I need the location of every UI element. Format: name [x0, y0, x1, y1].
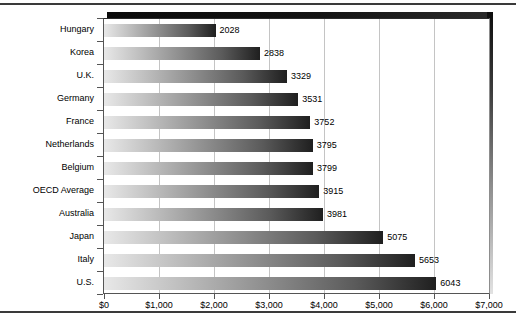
plot-area: 2028283833293531375237953799391539815075… — [103, 18, 490, 294]
category-tick — [97, 248, 103, 249]
bar-value-label: 3752 — [310, 118, 334, 127]
bar-row: 2028 — [104, 24, 489, 37]
category-tick — [97, 18, 103, 19]
value-tick-label: $3,000 — [255, 301, 283, 310]
figure-bottom-rule — [0, 311, 516, 313]
category-label: Italy — [77, 255, 94, 264]
value-tick — [159, 294, 160, 299]
category-label: France — [66, 117, 94, 126]
bar-value-label: 6043 — [436, 279, 460, 288]
bar-row: 5075 — [104, 231, 489, 244]
value-tick-label: $4,000 — [310, 301, 338, 310]
value-tick — [324, 294, 325, 299]
category-label: Hungary — [60, 25, 94, 34]
bar[interactable] — [104, 47, 260, 60]
category-tick — [97, 225, 103, 226]
bar-value-label: 3981 — [323, 210, 347, 219]
category-tick — [97, 156, 103, 157]
bar[interactable] — [104, 116, 310, 129]
value-tick-label: $1,000 — [145, 301, 173, 310]
bar[interactable] — [104, 70, 287, 83]
value-tick — [269, 294, 270, 299]
value-tick-label: $7,000 — [475, 301, 503, 310]
bar[interactable] — [104, 208, 323, 221]
bar-value-label: 3799 — [313, 164, 337, 173]
bar-value-label: 3329 — [287, 72, 311, 81]
bar[interactable] — [104, 93, 298, 106]
category-label: Korea — [70, 48, 94, 57]
category-label: Australia — [59, 209, 94, 218]
category-tick — [97, 41, 103, 42]
bar[interactable] — [104, 24, 216, 37]
bar[interactable] — [104, 254, 415, 267]
category-tick — [97, 110, 103, 111]
category-label: U.K. — [76, 71, 94, 80]
bar-row: 3752 — [104, 116, 489, 129]
value-tick — [214, 294, 215, 299]
category-tick — [97, 133, 103, 134]
bar-row: 3981 — [104, 208, 489, 221]
bar[interactable] — [104, 277, 436, 290]
bar-row: 3329 — [104, 70, 489, 83]
bar[interactable] — [104, 231, 383, 244]
category-tick — [97, 64, 103, 65]
bar-row: 3795 — [104, 139, 489, 152]
category-label: U.S. — [76, 278, 94, 287]
category-label: Belgium — [61, 163, 94, 172]
value-tick — [434, 294, 435, 299]
bar[interactable] — [104, 162, 313, 175]
category-label: Germany — [57, 94, 94, 103]
category-tick — [97, 271, 103, 272]
bar-value-label: 3915 — [319, 187, 343, 196]
category-tick — [97, 202, 103, 203]
bar-value-label: 3531 — [298, 95, 322, 104]
bar-row: 2838 — [104, 47, 489, 60]
bar-value-label: 5653 — [415, 256, 439, 265]
category-label: Netherlands — [45, 140, 94, 149]
bar-row: 3915 — [104, 185, 489, 198]
category-label: OECD Average — [33, 186, 94, 195]
chart-figure: 2028283833293531375237953799391539815075… — [0, 0, 516, 323]
bar-row: 6043 — [104, 277, 489, 290]
value-tick — [489, 294, 490, 299]
bar-value-label: 2028 — [216, 26, 240, 35]
bar[interactable] — [104, 185, 319, 198]
bar[interactable] — [104, 139, 313, 152]
bar-rows: 2028283833293531375237953799391539815075… — [104, 19, 489, 293]
category-tick — [97, 179, 103, 180]
figure-top-rule — [0, 3, 516, 5]
value-tick-label: $2,000 — [200, 301, 228, 310]
value-tick-label: $0 — [99, 301, 109, 310]
value-tick-label: $5,000 — [365, 301, 393, 310]
value-tick — [104, 294, 105, 299]
category-tick — [97, 87, 103, 88]
category-tick — [97, 294, 103, 295]
value-tick — [379, 294, 380, 299]
category-axis: HungaryKoreaU.K.GermanyFranceNetherlands… — [0, 18, 100, 294]
value-tick-label: $6,000 — [420, 301, 448, 310]
bar-value-label: 3795 — [313, 141, 337, 150]
category-label: Japan — [69, 232, 94, 241]
bar-row: 5653 — [104, 254, 489, 267]
bar-value-label: 5075 — [383, 233, 407, 242]
bar-value-label: 2838 — [260, 49, 284, 58]
bar-row: 3799 — [104, 162, 489, 175]
bar-row: 3531 — [104, 93, 489, 106]
